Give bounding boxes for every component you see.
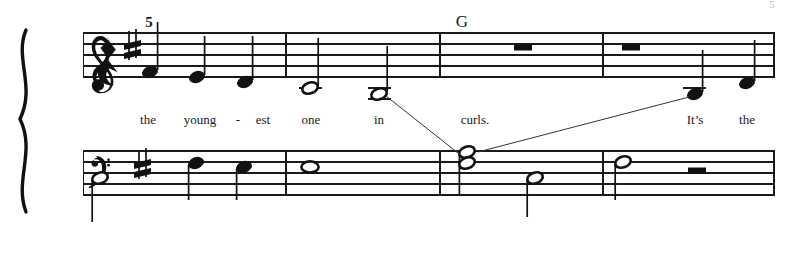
bass-note-half-1 [91,170,110,222]
note-quarter-1 [140,22,159,80]
leader-line-bass-to-its [478,97,689,152]
measure-number: 5 [145,14,153,30]
whole-rest-1 [514,45,532,51]
grand-staff-brace [20,30,26,212]
lyric-word: in [374,112,385,127]
lyrics-line: the young - est one in curls. It’s the [140,112,755,127]
bass-dyad-half [458,144,477,196]
note-half-2 [368,46,391,102]
lyric-word: curls. [461,112,490,127]
bass-note-half-2 [526,170,545,217]
bass-half-rest [688,168,706,174]
bass-note-quarter-2 [234,159,253,200]
lyric-word: the [140,112,156,127]
treble-staff-lines [83,33,775,77]
lyric-word: It’s [687,112,704,127]
lyric-hyphen: - [236,112,240,127]
key-signature-sharp-bass [134,148,151,179]
lyric-word: one [302,112,321,127]
lyric-word: est [256,112,271,127]
note-half-1 [299,38,322,96]
bass-staff-lines [83,151,775,195]
sheet-music-page: 5 G 5 the young - est one in curls. It’s… [0,0,799,253]
note-quarter-4 [683,50,706,102]
bass-note-quarter-1 [186,155,205,200]
bass-note-whole-1 [301,161,318,172]
leader-line-in-to-bass [386,96,463,157]
whole-rest-2 [622,45,640,51]
music-score: 5 G 5 the young - est one in curls. It’s… [0,0,799,253]
key-signature-sharp-treble [124,29,141,60]
chord-symbol-g: G [456,12,468,31]
note-quarter-2 [187,36,206,85]
page-corner-mark: 5 [770,0,775,10]
lyric-word: the [739,112,755,127]
bass-note-half-3 [614,154,633,200]
leader-lines [386,96,689,157]
lyric-word: young [184,112,217,127]
